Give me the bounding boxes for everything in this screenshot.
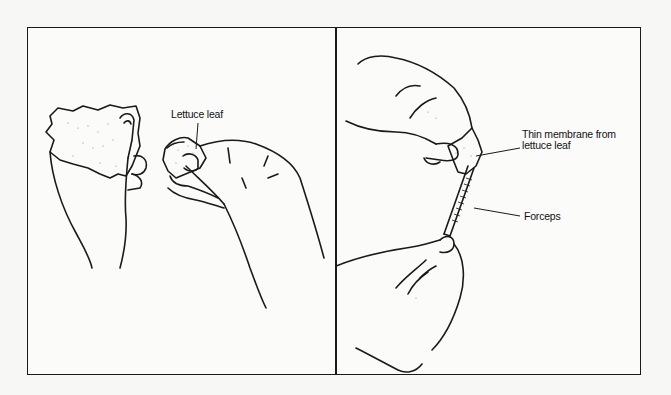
label-lettuce-leaf: Lettuce leaf: [171, 109, 223, 120]
label-forceps: Forceps: [524, 211, 561, 222]
forceps-leader-line: [474, 208, 520, 216]
hands-tearing-lettuce-illustration: [28, 28, 335, 376]
label-thin-membrane-line2: lettuce leaf: [522, 140, 616, 151]
panel-right-membrane-forceps: Thin membrane from lettuce leaf Forceps: [336, 28, 640, 374]
panel-left-lettuce-leaf: Lettuce leaf: [28, 28, 335, 374]
label-thin-membrane: Thin membrane from lettuce leaf: [522, 129, 616, 151]
forceps-peeling-membrane-illustration: [336, 28, 640, 376]
figure-frame: Lettuce leaf: [27, 27, 641, 375]
